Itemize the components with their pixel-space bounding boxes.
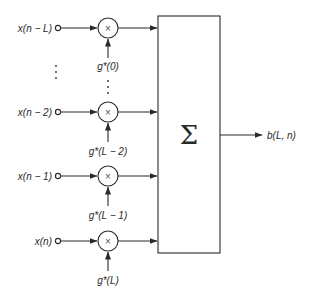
input-node-icon [55, 173, 60, 178]
multiply-icon: × [105, 107, 111, 118]
tap-row-1: x(n − 2) × g*(L − 2) [17, 102, 157, 157]
multiply-icon: × [105, 236, 111, 247]
tap-row-0: x(n − L) × g*(0) [17, 18, 157, 72]
coeff-label: g*(L) [97, 275, 119, 286]
input-label: x(n) [34, 236, 52, 247]
input-label: x(n − 2) [17, 107, 52, 118]
input-node-icon [55, 238, 60, 243]
input-node-icon [55, 109, 60, 114]
coeff-label: g*(L − 2) [89, 146, 127, 157]
sigma-icon: Σ [180, 120, 198, 150]
output-label: b(L, n) [267, 130, 296, 141]
multiply-icon: × [105, 23, 111, 34]
input-node-icon [55, 25, 60, 30]
multiply-icon: × [105, 171, 111, 182]
summation-block: Σ [158, 16, 220, 253]
coeff-label: g*(L − 1) [89, 210, 127, 221]
input-label: x(n − L) [17, 23, 52, 34]
output-branch: b(L, n) [220, 130, 296, 141]
coeff-label: g*(0) [97, 61, 119, 72]
transversal-filter-diagram: Σ b(L, n) x(n − L) × g*(0) x(n − 2) × g*… [0, 0, 309, 290]
tap-row-2: x(n − 1) × g*(L − 1) [17, 166, 157, 221]
tap-row-3: x(n) × g*(L) [34, 231, 157, 286]
input-label: x(n − 1) [17, 171, 52, 182]
